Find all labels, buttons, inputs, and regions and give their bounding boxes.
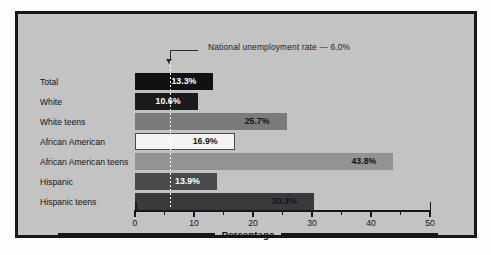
x-tick-45 <box>400 210 401 215</box>
x-tick-15 <box>223 210 224 215</box>
category-label-white: White <box>40 97 62 107</box>
plot-area: National unemployment rate — 6.0% Total … <box>18 14 474 235</box>
bar-value-african-american: 16.9% <box>193 133 218 150</box>
bar-value-white-teens: 25.7% <box>245 113 270 130</box>
x-tick-25 <box>282 210 283 215</box>
bar-value-total: 13.3% <box>171 73 196 90</box>
x-tick-35 <box>341 210 342 215</box>
annotation-leader-horizontal <box>170 50 198 51</box>
x-tick-50 <box>429 210 430 217</box>
x-tick-20 <box>252 210 253 217</box>
chart-frame: National unemployment rate — 6.0% Total … <box>15 11 477 238</box>
category-label-white-teens: White teens <box>40 117 85 127</box>
x-axis-title: Percentage <box>215 229 282 240</box>
category-label-african-american-teens: African American teens <box>40 157 128 167</box>
x-axis-title-group: Percentage <box>58 226 438 242</box>
x-axis-title-rule-right <box>281 233 438 236</box>
bar-value-white: 10.6% <box>156 93 181 110</box>
x-tick-30 <box>311 210 312 217</box>
x-tick-5 <box>164 210 165 215</box>
category-label-total: Total <box>40 77 58 87</box>
x-tick-40 <box>370 210 371 217</box>
x-tick-10 <box>193 210 194 217</box>
reference-line-national-rate <box>170 61 172 209</box>
bar-value-hispanic: 13.9% <box>175 173 200 190</box>
annotation-label-national-unemployment-rate: National unemployment rate — 6.0% <box>208 42 350 52</box>
chart-figure: National unemployment rate — 6.0% Total … <box>0 0 491 255</box>
category-label-hispanic: Hispanic <box>40 177 73 187</box>
bar-african-american <box>135 133 235 150</box>
x-tick-0 <box>134 210 135 217</box>
bar-value-hispanic-teens: 30.3% <box>272 193 297 210</box>
x-axis-title-rule-left <box>58 233 215 236</box>
category-label-hispanic-teens: Hispanic teens <box>40 197 96 207</box>
category-label-african-american: African American <box>40 137 105 147</box>
bar-value-african-american-teens: 43.8% <box>351 153 376 170</box>
